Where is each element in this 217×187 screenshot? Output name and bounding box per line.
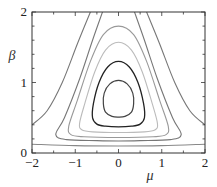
x-tick-label: 0 (115, 155, 122, 170)
axis-ticks (32, 12, 205, 153)
x-axis-label: μ (145, 168, 153, 183)
x-tick-label: 2 (202, 155, 209, 170)
y-tick-label: 2 (21, 4, 28, 19)
contour-plot: −2−1012 012 μ β (0, 0, 217, 187)
y-tick-labels: 012 (21, 4, 28, 160)
plot-frame (32, 12, 205, 153)
contour-line-c3 (79, 42, 157, 132)
y-tick-label: 0 (21, 145, 28, 160)
x-tick-label: −1 (68, 155, 82, 170)
contour-line-c6 (32, 12, 90, 125)
contour-line-c6r (147, 12, 205, 125)
contour-line-c5 (56, 12, 181, 141)
contour-lines (32, 12, 205, 146)
contour-line-c7 (32, 144, 205, 146)
y-tick-label: 1 (21, 75, 28, 90)
x-tick-label: −2 (25, 155, 39, 170)
x-tick-label: 1 (159, 155, 166, 170)
contour-line-c1 (103, 80, 133, 117)
y-axis-label: β (8, 48, 16, 63)
x-tick-labels: −2−1012 (25, 155, 208, 170)
